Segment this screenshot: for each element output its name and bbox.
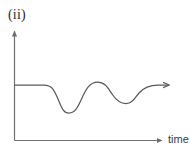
signal-curve [15, 82, 169, 113]
time-axis-label: time [168, 134, 189, 145]
graph-canvas [0, 0, 191, 156]
figure-container: (ii) time [0, 0, 191, 156]
